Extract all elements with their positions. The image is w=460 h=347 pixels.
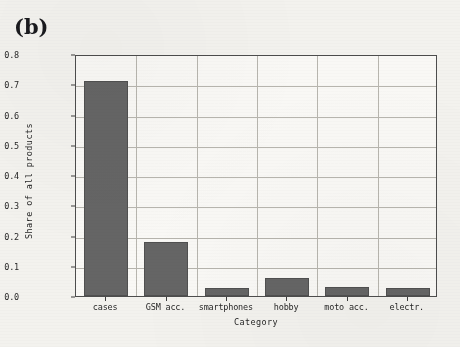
- bar-gsm-acc[interactable]: [144, 242, 188, 296]
- bar-moto-acc[interactable]: [325, 287, 369, 296]
- y-axis-tick-mark: [71, 206, 75, 207]
- bar-hobby[interactable]: [265, 278, 309, 296]
- y-axis-tick-mark: [71, 85, 75, 86]
- x-axis-tick-mark: [286, 297, 287, 301]
- plot-area: [75, 55, 437, 297]
- bar-slot: [136, 56, 196, 296]
- y-axis-tick-label: 0.0: [0, 292, 19, 302]
- bar-cases[interactable]: [84, 81, 128, 296]
- bar-series: [76, 56, 436, 296]
- y-axis-tick-label: 0.3: [0, 201, 19, 211]
- bar-smartphones[interactable]: [205, 288, 249, 296]
- y-axis-tick-mark: [71, 266, 75, 267]
- x-axis-tick-mark: [347, 297, 348, 301]
- y-axis-tick-label: 0.8: [0, 50, 19, 60]
- y-axis-tick-mark: [71, 236, 75, 237]
- bar-slot: [257, 56, 317, 296]
- x-axis-title: Category: [75, 317, 437, 327]
- y-axis-tick-label: 0.4: [0, 171, 19, 181]
- x-axis-tick-mark: [226, 297, 227, 301]
- y-axis-tick-mark: [71, 115, 75, 116]
- y-axis-title: Share of all products: [24, 91, 34, 271]
- bar-slot: [197, 56, 257, 296]
- y-axis-tick-mark: [71, 55, 75, 56]
- y-axis-tick-mark: [71, 297, 75, 298]
- y-axis-tick-label: 0.5: [0, 141, 19, 151]
- x-axis-tick-mark: [407, 297, 408, 301]
- bar-chart-figure: Share of all products Category 0.00.10.2…: [0, 0, 460, 347]
- y-axis-tick-mark: [71, 145, 75, 146]
- y-axis-tick-mark: [71, 176, 75, 177]
- x-axis-tick-label: electr.: [357, 302, 457, 312]
- bar-slot: [76, 56, 136, 296]
- y-axis-tick-label: 0.7: [0, 80, 19, 90]
- y-axis-tick-label: 0.2: [0, 232, 19, 242]
- x-axis-tick-mark: [166, 297, 167, 301]
- bar-slot: [317, 56, 377, 296]
- y-axis-tick-label: 0.1: [0, 262, 19, 272]
- x-axis-tick-mark: [105, 297, 106, 301]
- bar-slot: [378, 56, 438, 296]
- bar-electr[interactable]: [386, 288, 430, 296]
- y-axis-tick-label: 0.6: [0, 111, 19, 121]
